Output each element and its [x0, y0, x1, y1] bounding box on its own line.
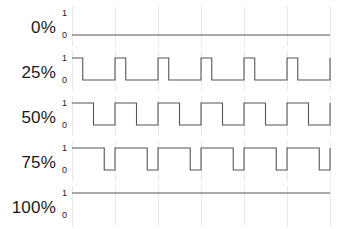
- y-tick-low: 0: [62, 30, 67, 40]
- waveform-plot: [72, 186, 332, 226]
- duty-cycle-label: 25%: [0, 63, 56, 83]
- y-tick-low: 0: [62, 210, 67, 220]
- y-tick-high: 1: [62, 188, 67, 198]
- y-tick-high: 1: [62, 98, 67, 108]
- waveform-plot: [72, 6, 332, 46]
- y-tick-low: 0: [62, 75, 67, 85]
- waveform-row: 25%10: [0, 51, 340, 89]
- square-wave-path: [72, 148, 330, 170]
- y-tick-low: 0: [62, 120, 67, 130]
- waveform-row: 75%10: [0, 141, 340, 179]
- waveform-row: 50%10: [0, 96, 340, 134]
- pwm-duty-cycle-chart: 0%1025%1050%1075%10100%10: [0, 0, 340, 229]
- y-tick-high: 1: [62, 143, 67, 153]
- y-tick-low: 0: [62, 165, 67, 175]
- y-tick-high: 1: [62, 53, 67, 63]
- duty-cycle-label: 100%: [0, 198, 56, 218]
- duty-cycle-label: 50%: [0, 108, 56, 128]
- y-tick-high: 1: [62, 8, 67, 18]
- waveform-plot: [72, 96, 332, 136]
- square-wave-path: [72, 103, 330, 125]
- waveform-plot: [72, 51, 332, 91]
- waveform-row: 100%10: [0, 186, 340, 224]
- duty-cycle-label: 75%: [0, 153, 56, 173]
- duty-cycle-label: 0%: [0, 18, 56, 38]
- waveform-row: 0%10: [0, 6, 340, 44]
- waveform-plot: [72, 141, 332, 181]
- square-wave-path: [72, 58, 330, 80]
